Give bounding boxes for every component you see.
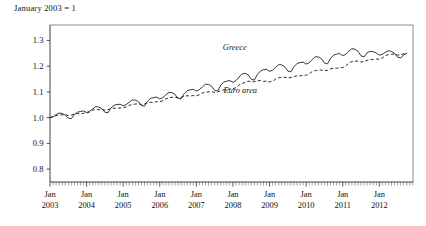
x-axis-year-label: 2010 [298, 201, 315, 210]
x-axis-year-label: 2003 [42, 201, 59, 210]
x-axis-labels: Jan2003Jan2004Jan2005Jan2006Jan2007Jan20… [42, 190, 388, 210]
y-axis-tick-label: 1.0 [33, 113, 44, 123]
series-line-greece [50, 49, 407, 119]
x-axis-year-label: 2009 [261, 201, 278, 210]
x-axis-year-label: 2007 [188, 201, 205, 210]
y-axis-tick-label: 0.8 [33, 164, 44, 174]
x-axis-month-label: Jan [191, 190, 203, 199]
x-axis-month-label: Jan [227, 190, 239, 199]
series-annotations: GreeceEuro area [222, 43, 257, 95]
x-axis-month-label: Jan [337, 190, 349, 199]
x-axis-ticks [50, 182, 413, 187]
x-axis-month-label: Jan [374, 190, 386, 199]
x-axis-year-label: 2005 [115, 201, 132, 210]
line-chart-plot: 0.80.91.01.11.21.3 Jan2003Jan2004Jan2005… [0, 0, 426, 226]
x-axis-month-label: Jan [154, 190, 166, 199]
x-axis-year-label: 2012 [371, 201, 388, 210]
y-axis-tick-label: 1.1 [33, 87, 44, 97]
series-label-euro-area: Euro area [222, 86, 257, 95]
x-axis-month-label: Jan [264, 190, 276, 199]
x-axis-month-label: Jan [118, 190, 130, 199]
x-axis-year-label: 2006 [151, 201, 168, 210]
x-axis-month-label: Jan [301, 190, 313, 199]
y-axis-labels: 0.80.91.01.11.21.3 [33, 35, 44, 174]
y-axis-tick-label: 1.3 [33, 35, 44, 45]
y-axis-tick-label: 0.9 [33, 138, 44, 148]
y-axis-ticks [47, 40, 50, 169]
y-axis-tick-label: 1.2 [33, 61, 44, 71]
x-axis-month-label: Jan [81, 190, 93, 199]
series-label-greece: Greece [223, 43, 247, 52]
x-axis-year-label: 2008 [225, 201, 242, 210]
x-axis-year-label: 2011 [335, 201, 351, 210]
chart-figure: January 2003 = 1 0.80.91.01.11.21.3 Jan2… [0, 0, 426, 226]
data-series-group [50, 49, 407, 119]
x-axis-month-label: Jan [44, 190, 56, 199]
x-axis-year-label: 2004 [78, 201, 96, 210]
